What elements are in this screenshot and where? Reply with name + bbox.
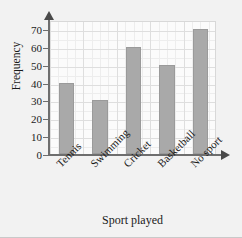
bar-chart-figure: 010203040506070 Frequency Sport played T…: [0, 0, 242, 238]
x-axis-category-labels: TennisSwimmingCricketBasketballNo sport: [0, 0, 242, 238]
x-axis-category-label: Tennis: [54, 140, 84, 170]
x-axis-category-label: Cricket: [121, 138, 153, 170]
